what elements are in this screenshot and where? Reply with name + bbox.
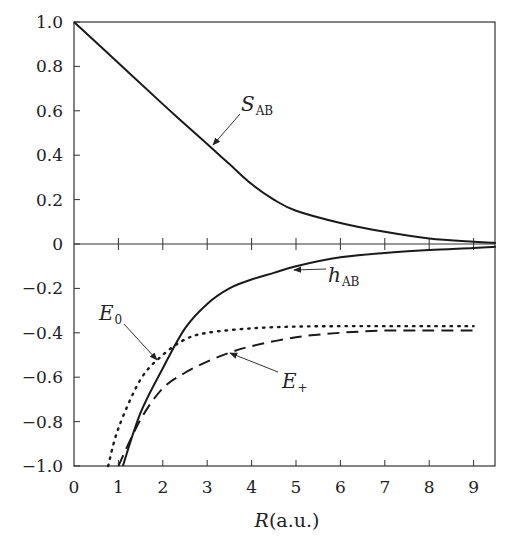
y-tick-label: 0.4 xyxy=(36,145,63,165)
y-tick-label: −1.0 xyxy=(22,456,63,476)
y-tick-label: −0.6 xyxy=(22,367,63,387)
y-tick-label: −0.8 xyxy=(22,412,63,432)
arrow-icon-s-ab xyxy=(213,114,240,145)
label-h-ab: hAB xyxy=(328,263,360,289)
x-axis-title: R(a.u.) xyxy=(254,509,320,531)
x-tick-label: 9 xyxy=(468,477,479,497)
y-tick-label: −0.2 xyxy=(22,278,63,298)
x-tick-label: 0 xyxy=(69,477,80,497)
x-tick-label: 8 xyxy=(424,477,435,497)
x-axis-title-unit: (a.u.) xyxy=(269,509,319,531)
y-tick-label: 1.0 xyxy=(36,12,63,32)
x-tick-label: 7 xyxy=(379,477,390,497)
arrow-icon-e- xyxy=(230,353,278,372)
curve-h-ab xyxy=(123,247,496,466)
label-s-ab: SAB xyxy=(241,92,273,118)
arrow-icon-e-0 xyxy=(124,324,157,360)
x-tick-label: 6 xyxy=(335,477,346,497)
y-tick-label: 0.6 xyxy=(36,101,63,121)
x-tick-label: 5 xyxy=(291,477,302,497)
label-e-: E+ xyxy=(281,369,308,395)
x-axis-tick-labels: 0123456789 xyxy=(69,477,479,497)
y-tick-label: 0.2 xyxy=(36,190,63,210)
x-tick-label: 1 xyxy=(113,477,124,497)
label-e-0: E0 xyxy=(98,301,122,327)
plot-frame xyxy=(74,22,495,466)
y-tick-label: 0 xyxy=(52,234,63,254)
x-axis-title-variable: R xyxy=(254,509,269,531)
y-axis-tick-labels: 1.00.80.60.40.20−0.2−0.4−0.6−0.8−1.0 xyxy=(22,12,63,476)
arrow-icon-h-ab xyxy=(294,269,326,270)
curve-s-ab xyxy=(74,22,496,243)
curve-e-0 xyxy=(108,326,473,466)
x-tick-label: 2 xyxy=(157,477,168,497)
chart: 1.00.80.60.40.20−0.2−0.4−0.6−0.8−1.0 012… xyxy=(0,0,507,544)
y-tick-label: 0.8 xyxy=(36,56,63,76)
x-tick-label: 3 xyxy=(202,477,213,497)
y-tick-label: −0.4 xyxy=(22,323,63,343)
x-tick-label: 4 xyxy=(246,477,257,497)
